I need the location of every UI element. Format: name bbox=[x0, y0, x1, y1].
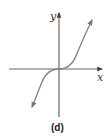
curve-lower-branch bbox=[32, 69, 59, 107]
figure-caption: (d) bbox=[51, 123, 64, 133]
graph-diagram: y x (d) bbox=[0, 0, 112, 139]
x-axis-label: x bbox=[97, 72, 103, 83]
curve-upper-branch bbox=[59, 20, 92, 69]
y-axis-label: y bbox=[50, 11, 56, 22]
